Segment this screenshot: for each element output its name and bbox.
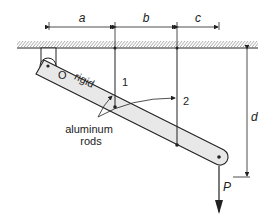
pin-label: O <box>58 69 67 81</box>
rod-1-label: 1 <box>122 76 128 88</box>
load-arrow <box>215 166 223 214</box>
load-label: P <box>223 180 231 194</box>
dim-b-label: b <box>143 11 150 25</box>
rods-label-line1: aluminum <box>65 123 113 135</box>
dimension-d: d <box>233 49 258 177</box>
diagram-canvas: a b c O rigid 1 2 aluminum rods d <box>0 0 274 224</box>
ceiling-support <box>17 41 258 48</box>
dim-a-label: a <box>79 11 86 25</box>
dim-d-label: d <box>251 110 258 124</box>
rods-label-line2: rods <box>80 135 102 147</box>
dim-c-label: c <box>195 11 201 25</box>
rod-2-label: 2 <box>183 95 189 107</box>
